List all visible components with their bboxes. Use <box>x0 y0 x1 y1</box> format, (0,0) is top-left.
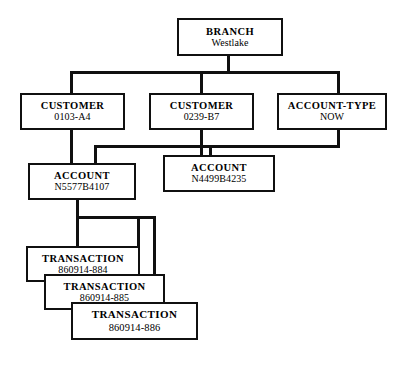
connector-bus-to-account1 <box>94 145 97 165</box>
node-customer-2-value: 0239-B7 <box>184 112 220 123</box>
node-transaction-3: TRANSACTION 860914-886 <box>71 302 198 340</box>
node-account-type-title: ACCOUNT-TYPE <box>288 100 376 111</box>
node-transaction-2-title: TRANSACTION <box>64 281 146 292</box>
node-customer-2-title: CUSTOMER <box>170 100 234 111</box>
connector-row3-bus <box>94 145 340 148</box>
node-account-1-title: ACCOUNT <box>54 170 110 181</box>
entity-relationship-diagram: BRANCH Westlake CUSTOMER 0103-A4 CUSTOME… <box>0 0 403 366</box>
connector-drop-transaction-1 <box>76 216 79 248</box>
node-account-1-value: N5577B4107 <box>55 182 110 193</box>
node-branch: BRANCH Westlake <box>177 18 283 56</box>
node-transaction-1-title: TRANSACTION <box>42 253 124 264</box>
connector-transaction-bus <box>76 216 156 219</box>
node-branch-value: Westlake <box>211 38 248 49</box>
node-account-1: ACCOUNT N5577B4107 <box>28 163 136 200</box>
node-account-2-value: N4499B4235 <box>192 174 247 185</box>
node-account-2: ACCOUNT N4499B4235 <box>163 155 275 192</box>
connector-customer2-stem <box>200 129 203 157</box>
node-account-2-title: ACCOUNT <box>191 162 247 173</box>
node-account-type: ACCOUNT-TYPE NOW <box>277 93 387 130</box>
node-transaction-3-title: TRANSACTION <box>92 309 178 321</box>
connector-drop-account-type <box>337 71 340 94</box>
node-transaction-3-value: 860914-886 <box>109 322 161 333</box>
connector-drop-customer-1 <box>70 71 73 94</box>
node-branch-title: BRANCH <box>206 26 254 37</box>
node-account-type-value: NOW <box>320 112 344 123</box>
node-customer-1: CUSTOMER 0103-A4 <box>20 93 125 130</box>
connector-row2-bus <box>70 71 340 74</box>
connector-customer1-to-account1 <box>70 129 73 165</box>
node-customer-1-value: 0103-A4 <box>54 112 90 123</box>
connector-drop-customer-2 <box>200 71 203 94</box>
node-customer-1-title: CUSTOMER <box>41 100 105 111</box>
node-customer-2: CUSTOMER 0239-B7 <box>149 93 254 130</box>
